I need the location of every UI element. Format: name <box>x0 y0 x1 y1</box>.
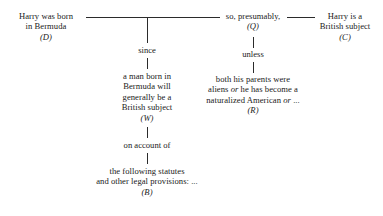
node-warrant-symbol: (W) <box>102 113 192 123</box>
node-qualifier: so, presumably, (Q) <box>213 11 293 32</box>
connector-label-since: since <box>117 45 177 55</box>
node-rebuttal-line-1: both his parents were <box>190 74 316 84</box>
connector-qualifier-to-unless <box>253 37 254 48</box>
node-claim: Harry is a British subject (C) <box>310 11 380 42</box>
toulmin-diagram: Harry was born in Bermuda (D) so, presum… <box>0 0 383 216</box>
node-data-line-1: Harry was born <box>6 11 86 21</box>
node-warrant-line-2: Bermuda will <box>102 81 192 91</box>
node-backing-symbol: (B) <box>62 187 232 197</box>
node-data-symbol: (D) <box>6 32 86 42</box>
connector-spine-to-since <box>147 17 148 43</box>
node-backing: the following statutes and other legal p… <box>62 166 232 197</box>
node-claim-line-1: Harry is a <box>310 11 380 21</box>
connector-on-account-of-to-backing <box>147 153 148 164</box>
node-qualifier-line-1: so, presumably, <box>213 11 293 21</box>
node-warrant: a man born in Bermuda will generally be … <box>102 71 192 123</box>
node-claim-symbol: (C) <box>310 32 380 42</box>
node-rebuttal: both his parents were aliens or he has b… <box>190 74 316 116</box>
connector-warrant-to-on-account-of <box>147 127 148 138</box>
node-backing-line-1: the following statutes <box>62 166 232 176</box>
connector-label-unless: unless <box>223 49 283 59</box>
connector-since-to-warrant <box>147 58 148 69</box>
node-rebuttal-symbol: (R) <box>190 105 316 115</box>
node-warrant-line-3: generally be a <box>102 92 192 102</box>
node-warrant-line-1: a man born in <box>102 71 192 81</box>
node-claim-line-2: British subject <box>310 21 380 31</box>
node-data-line-2: in Bermuda <box>6 21 86 31</box>
node-warrant-line-4: British subject <box>102 102 192 112</box>
node-qualifier-symbol: (Q) <box>213 21 293 31</box>
connector-unless-to-rebuttal <box>253 62 254 73</box>
node-rebuttal-line-3: naturalized American or ... <box>190 95 316 105</box>
connector-label-on-account-of: on account of <box>107 140 187 150</box>
node-backing-line-2: and other legal provisions: ... <box>62 176 232 186</box>
connector-data-to-qualifier <box>86 17 220 18</box>
node-data: Harry was born in Bermuda (D) <box>6 11 86 42</box>
node-rebuttal-line-2: aliens or he has become a <box>190 84 316 94</box>
